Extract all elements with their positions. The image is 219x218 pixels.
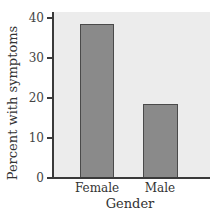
y-tick-20	[47, 97, 53, 99]
bar-female	[80, 24, 114, 178]
y-axis-title: Percent with symptoms	[6, 26, 19, 181]
y-tick-10	[47, 137, 53, 139]
y-tick-0	[47, 177, 53, 179]
y-tick-label-40: 40	[8, 12, 44, 24]
x-axis-title: Gender	[100, 197, 160, 210]
y-tick-40	[47, 17, 53, 19]
y-tick-30	[47, 57, 53, 59]
x-category-label-female: Female	[67, 182, 127, 194]
plot-area	[53, 12, 210, 178]
x-category-label-male: Male	[130, 182, 190, 194]
y-axis-line	[52, 12, 54, 179]
x-axis-line	[52, 177, 210, 179]
bar-male	[143, 104, 178, 178]
